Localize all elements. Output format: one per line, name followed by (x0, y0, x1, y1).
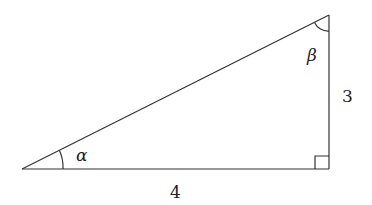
triangle (22, 15, 329, 169)
right-angle-marker (315, 156, 329, 169)
alpha-arc (60, 150, 64, 169)
right-triangle-diagram: α β 3 4 (0, 0, 372, 205)
beta-arc (315, 23, 330, 32)
side-bottom-label: 4 (170, 182, 181, 202)
angle-beta-label: β (306, 45, 317, 65)
side-right-label: 3 (342, 86, 353, 106)
hypotenuse (22, 15, 329, 169)
angle-alpha-label: α (76, 145, 88, 165)
